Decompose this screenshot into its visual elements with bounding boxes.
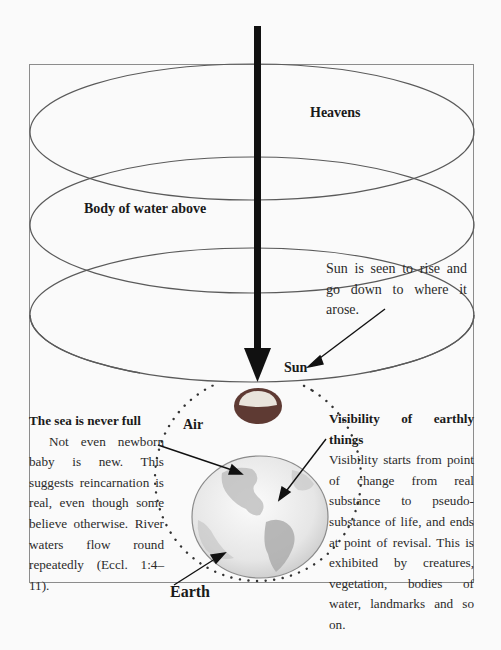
- visibility-text-block: Visibility of earthly things Visibility …: [329, 409, 474, 636]
- sun-note: Sun is seen to rise and go down to where…: [326, 259, 467, 321]
- sun-icon: [234, 388, 282, 424]
- visibility-body: Visibility starts from point of change f…: [329, 452, 474, 632]
- heavens-ellipse: [30, 64, 474, 200]
- air-label: Air: [183, 416, 203, 434]
- sea-heading: The sea is never full: [29, 411, 164, 432]
- sun-label: Sun: [284, 359, 307, 377]
- body-of-water-label: Body of water above: [84, 200, 206, 218]
- heavens-label: Heavens: [310, 104, 361, 122]
- sea-text-block: The sea is never full Not even newborn b…: [29, 411, 164, 596]
- sea-pointer-arrow: [158, 445, 242, 474]
- visibility-heading: Visibility of earthly things: [329, 409, 474, 450]
- earth-globe: [192, 456, 328, 578]
- earth-label: Earth: [170, 583, 210, 601]
- sea-body: Not even newborn baby is new. This sugge…: [29, 434, 164, 593]
- down-arrow-icon: [244, 26, 271, 382]
- earth-pointer-arrow: [174, 553, 225, 585]
